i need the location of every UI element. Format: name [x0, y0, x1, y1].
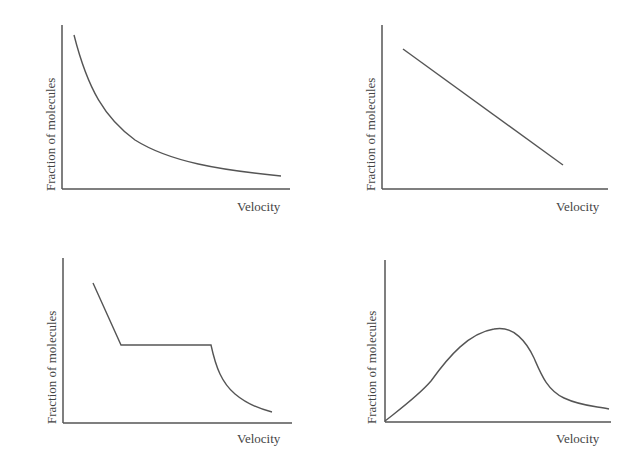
x-axis-label: Velocity: [237, 431, 280, 447]
distribution-curve: [385, 328, 609, 421]
distribution-line: [403, 49, 563, 165]
distribution-curve: [93, 283, 272, 412]
y-axis-label: Fraction of molecules: [363, 78, 379, 191]
chart-panel-bottom-right: Fraction of molecules Velocity: [319, 238, 638, 476]
y-axis-label: Fraction of molecules: [44, 311, 60, 424]
x-axis-label: Velocity: [237, 199, 280, 215]
x-axis-label: Velocity: [556, 431, 599, 447]
chart-panel-bottom-left: Fraction of molecules Velocity: [0, 238, 319, 476]
chart-panel-top-right: Fraction of molecules Velocity: [319, 0, 638, 238]
x-axis-label: Velocity: [556, 199, 599, 215]
distribution-curve: [74, 35, 281, 176]
y-axis-label: Fraction of molecules: [364, 311, 380, 424]
chart-panel-top-left: Fraction of molecules Velocity: [0, 0, 319, 238]
y-axis-label: Fraction of molecules: [43, 78, 59, 191]
